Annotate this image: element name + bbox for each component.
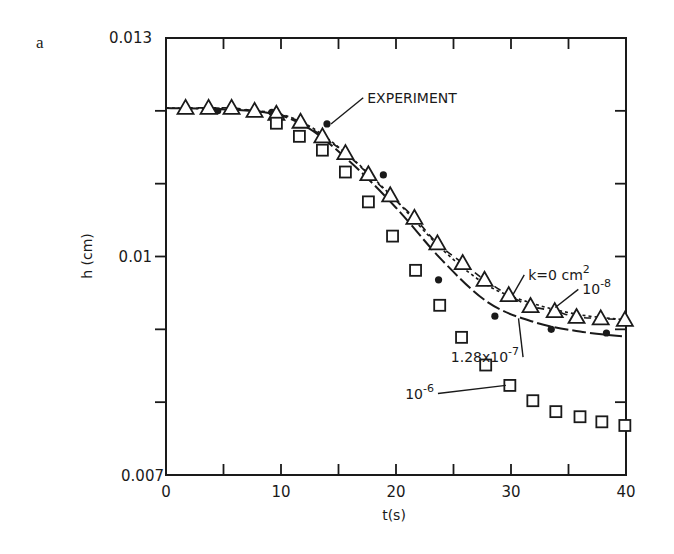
triangle-point — [455, 255, 471, 269]
square-point — [434, 300, 445, 311]
experiment-point — [603, 329, 610, 336]
square-point — [317, 145, 328, 156]
chart: 0102030400.0070.010.013 EXPERIMENTk=0 cm… — [0, 0, 674, 554]
annotation-leader — [519, 318, 524, 357]
annotation-leader — [438, 385, 506, 393]
x-tick-label: 20 — [386, 483, 405, 501]
square-point — [294, 131, 305, 142]
annotation-label: k=0 cm2 — [528, 263, 590, 283]
annotation-label: 1.28x10-7 — [451, 345, 519, 365]
y-axis-title: h (cm) — [79, 233, 95, 279]
annotation-label: 10-6 — [405, 382, 434, 402]
y-tick-label: 0.013 — [109, 29, 152, 47]
experiment-point — [435, 276, 442, 283]
triangle-point — [314, 128, 330, 142]
model-curves — [166, 108, 626, 337]
square-point — [619, 420, 630, 431]
triangle-point — [201, 100, 217, 114]
square-point — [271, 118, 282, 129]
square-point — [363, 196, 374, 207]
square-point — [410, 265, 421, 276]
annotation-leader — [513, 275, 525, 295]
data-markers — [178, 100, 633, 431]
experiment-point — [491, 313, 498, 320]
curve-1-28x10-7 — [166, 108, 626, 337]
x-tick-label: 0 — [161, 483, 171, 501]
square-point — [527, 395, 538, 406]
annotation-label: EXPERIMENT — [367, 90, 457, 106]
square-point — [550, 406, 561, 417]
square-point — [387, 231, 398, 242]
curve-annotations: EXPERIMENTk=0 cm210-81.28x10-710-6 — [331, 90, 611, 402]
annotation-leader — [331, 98, 363, 124]
curve-k-0-cm-2 — [186, 108, 625, 320]
x-tick-label: 10 — [271, 483, 290, 501]
square-point — [596, 416, 607, 427]
annotation-label: 10-8 — [582, 277, 611, 297]
experiment-point — [380, 171, 387, 178]
experiment-point — [323, 120, 330, 127]
square-point — [504, 380, 515, 391]
x-axis-title: t(s) — [382, 507, 406, 523]
triangle-point — [178, 100, 194, 114]
square-point — [456, 332, 467, 343]
square-point — [575, 411, 586, 422]
square-point — [340, 167, 351, 178]
annotation-leader — [555, 289, 578, 307]
y-tick-label: 0.01 — [119, 248, 152, 266]
triangle-point — [477, 272, 493, 286]
triangle-point — [569, 309, 585, 323]
triangle-point — [501, 287, 517, 301]
y-tick-label: 0.007 — [121, 467, 164, 485]
experiment-point — [548, 326, 555, 333]
curve-10-8 — [166, 108, 626, 320]
x-tick-label: 30 — [501, 483, 520, 501]
x-tick-label: 40 — [616, 483, 635, 501]
